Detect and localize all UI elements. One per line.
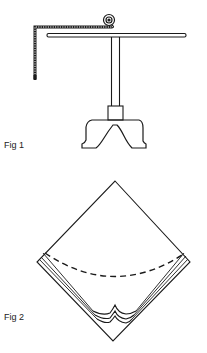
fig1-drawing [34,15,187,149]
fig2-label: Fig 2 [4,312,24,322]
diamond-sheet [37,181,190,341]
measuring-tape [34,27,113,80]
horizontal-bar [47,34,186,38]
stand-feet [82,120,146,148]
dashed-fold-line [45,253,185,277]
fig2-drawing [37,181,190,341]
base-block [108,106,123,120]
diagram-canvas [0,0,207,353]
scalloped-edges [93,305,136,323]
fig1-label: Fig 1 [4,140,24,150]
layered-edges [39,253,188,319]
